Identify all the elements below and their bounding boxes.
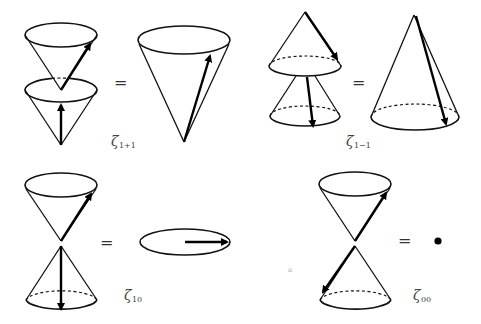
spin-arrow-upper	[61, 44, 90, 90]
panel-zeta-00: = ζ 00	[319, 172, 442, 309]
label-zeta-1-plus-1: ζ 1+1	[111, 133, 136, 150]
spin-arrow-lower	[307, 77, 313, 126]
upper-cone	[25, 173, 97, 241]
equals-sign: =	[114, 73, 127, 92]
result-cone	[138, 26, 230, 142]
spin-arrow-upper	[61, 194, 91, 241]
label-zeta-10: ζ 10	[124, 287, 142, 304]
svg-text:00: 00	[421, 295, 431, 304]
spin-arrow-result	[416, 16, 446, 124]
cone-composition-diagram: = ζ 1+1 =	[0, 0, 481, 324]
stray-mark: a	[288, 266, 292, 274]
result-point	[434, 237, 441, 244]
upper-cone	[25, 23, 97, 90]
svg-text:1−1: 1−1	[354, 141, 371, 150]
spin-arrow-result	[184, 56, 210, 142]
lower-cone	[270, 76, 340, 126]
spin-arrow-upper	[305, 12, 337, 59]
upper-cone	[269, 12, 341, 76]
equals-sign: =	[398, 231, 411, 250]
spin-arrow-lower	[323, 246, 355, 292]
panel-zeta-1-minus-1: = ζ 1−1	[269, 12, 459, 150]
label-zeta-00: ζ 00	[413, 287, 431, 304]
panel-zeta-10: = ζ 10	[25, 173, 230, 309]
lower-cone	[320, 246, 391, 309]
equals-sign: =	[352, 73, 365, 92]
label-zeta-1-minus-1: ζ 1−1	[346, 133, 371, 150]
upper-cone	[319, 172, 391, 241]
spin-arrow-upper	[355, 193, 386, 241]
result-cone	[371, 15, 459, 130]
panel-zeta-1-plus-1: = ζ 1+1	[25, 23, 230, 150]
svg-text:1+1: 1+1	[119, 141, 136, 150]
equals-sign: =	[100, 233, 113, 252]
svg-text:10: 10	[132, 295, 142, 304]
